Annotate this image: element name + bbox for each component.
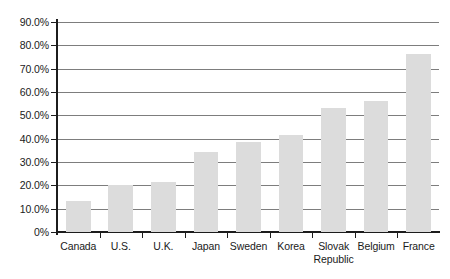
- bar[interactable]: [66, 201, 91, 232]
- bars-layer: [57, 22, 440, 232]
- x-axis-tick: [142, 233, 143, 238]
- x-axis-tick: [185, 233, 186, 238]
- x-axis-tick: [227, 233, 228, 238]
- x-axis-tick: [355, 233, 356, 238]
- bar-slot: [185, 22, 228, 232]
- bar-slot: [312, 22, 355, 232]
- bar-slot: [355, 22, 398, 232]
- y-axis-tick-label: 90.0%: [1, 17, 49, 28]
- y-axis-tick: [51, 69, 56, 70]
- bar[interactable]: [279, 135, 304, 232]
- y-axis-tick-label: 60.0%: [1, 87, 49, 98]
- y-axis-labels: 0%10.0%20.0%30.0%40.0%50.0%60.0%70.0%80.…: [0, 0, 49, 279]
- x-axis-tick: [270, 233, 271, 238]
- y-axis-tick: [51, 139, 56, 140]
- bar[interactable]: [194, 152, 219, 232]
- x-axis-category-label: France: [391, 240, 446, 253]
- x-axis-label-line: France: [391, 240, 446, 253]
- y-axis-tick: [51, 45, 56, 46]
- x-axis-tick: [397, 233, 398, 238]
- y-axis-tick-label: 20.0%: [1, 180, 49, 191]
- bar-slot: [100, 22, 143, 232]
- y-axis-tick: [51, 209, 56, 210]
- bar-slot: [57, 22, 100, 232]
- x-axis-tick: [100, 233, 101, 238]
- x-axis-tick: [312, 233, 313, 238]
- bar[interactable]: [236, 142, 261, 232]
- y-axis-tick: [51, 22, 56, 23]
- y-axis-tick: [51, 185, 56, 186]
- bar[interactable]: [406, 54, 431, 233]
- y-axis-tick: [51, 92, 56, 93]
- y-axis-tick-label: 0%: [1, 227, 49, 238]
- y-axis-tick: [51, 162, 56, 163]
- bar[interactable]: [364, 101, 389, 232]
- bar-slot: [397, 22, 440, 232]
- y-axis-tick-label: 10.0%: [1, 204, 49, 215]
- y-axis-tick-label: 30.0%: [1, 157, 49, 168]
- y-axis-tick: [51, 232, 56, 233]
- x-axis-label-line: Republic: [306, 253, 361, 266]
- bar-chart: 0%10.0%20.0%30.0%40.0%50.0%60.0%70.0%80.…: [0, 0, 450, 279]
- bar-slot: [142, 22, 185, 232]
- bar[interactable]: [108, 185, 133, 232]
- bar-slot: [270, 22, 313, 232]
- y-axis-tick: [51, 115, 56, 116]
- y-axis-tick-label: 80.0%: [1, 40, 49, 51]
- y-axis-tick-label: 70.0%: [1, 64, 49, 75]
- x-axis-labels: CanadaU.S.U.K.JapanSwedenKoreaSlovakRepu…: [57, 240, 440, 278]
- y-axis-tick-label: 50.0%: [1, 110, 49, 121]
- bar-slot: [227, 22, 270, 232]
- bar[interactable]: [151, 182, 176, 232]
- bar[interactable]: [321, 108, 346, 232]
- y-axis-tick-label: 40.0%: [1, 134, 49, 145]
